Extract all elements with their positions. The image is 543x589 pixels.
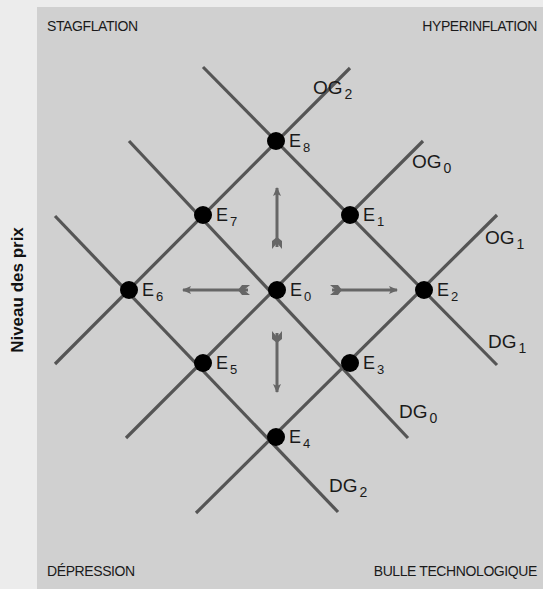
point-e2 bbox=[415, 281, 433, 299]
point-label-e0: E0 bbox=[290, 280, 311, 304]
curve-label-dg0: DG0 bbox=[399, 401, 438, 426]
ad-as-diagram: OG2OG0OG1DG1DG0DG2 E0E1E2E3E4E5E6E7E8 bbox=[0, 0, 543, 589]
point-e6 bbox=[120, 281, 138, 299]
point-label-e6: E6 bbox=[142, 280, 163, 304]
point-e7 bbox=[194, 206, 212, 224]
curve-label-dg1: DG1 bbox=[488, 331, 527, 356]
point-label-e3: E3 bbox=[363, 353, 384, 377]
point-label-e7: E7 bbox=[216, 205, 237, 229]
point-label-e8: E8 bbox=[289, 131, 310, 155]
point-e8 bbox=[267, 132, 285, 150]
curve-label-dg2: DG2 bbox=[329, 475, 368, 500]
curve-label-og1: OG1 bbox=[485, 227, 525, 252]
point-e0 bbox=[268, 281, 286, 299]
point-e4 bbox=[267, 428, 285, 446]
point-e5 bbox=[194, 354, 212, 372]
point-label-e1: E1 bbox=[363, 205, 384, 229]
point-e3 bbox=[341, 354, 359, 372]
point-label-e4: E4 bbox=[289, 427, 310, 451]
point-label-e2: E2 bbox=[437, 280, 458, 304]
point-label-e5: E5 bbox=[216, 353, 237, 377]
point-e1 bbox=[341, 206, 359, 224]
curve-label-og0: OG0 bbox=[412, 151, 452, 176]
